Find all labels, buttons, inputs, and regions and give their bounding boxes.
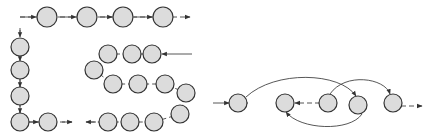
node [85, 61, 103, 79]
node [113, 7, 133, 27]
node [99, 45, 117, 63]
node [123, 45, 141, 63]
node [153, 7, 173, 27]
serpentine-flow [85, 45, 195, 131]
flow-diagram [0, 0, 426, 138]
node [145, 113, 163, 131]
node [384, 94, 402, 112]
node [121, 113, 139, 131]
jump-flow [213, 77, 422, 126]
node [39, 113, 57, 131]
node [229, 94, 247, 112]
node [129, 75, 147, 93]
node [143, 45, 161, 63]
node [319, 94, 337, 112]
node [349, 96, 367, 114]
node [77, 7, 97, 27]
node [177, 84, 195, 102]
node [276, 94, 294, 112]
node [99, 113, 117, 131]
node [37, 7, 57, 27]
node [11, 113, 29, 131]
left-column-flow [11, 28, 72, 131]
node [171, 105, 189, 123]
node [11, 87, 29, 105]
node [11, 61, 29, 79]
top-row-flow [20, 7, 190, 27]
node [104, 75, 122, 93]
node [156, 75, 174, 93]
node [11, 38, 29, 56]
